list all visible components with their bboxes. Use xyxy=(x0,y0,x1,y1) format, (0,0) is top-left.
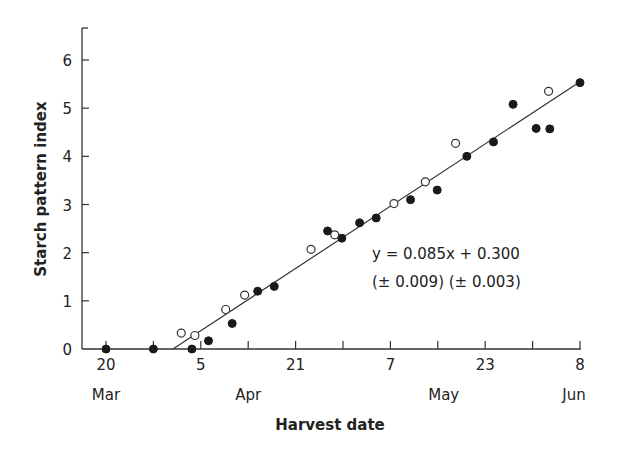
x-tick-label: 8 xyxy=(575,356,585,374)
filled-data-point xyxy=(102,345,110,353)
filled-data-point xyxy=(463,152,471,160)
filled-data-point xyxy=(254,287,262,295)
filled-data-point xyxy=(356,219,364,227)
filled-data-point xyxy=(433,186,441,194)
x-axis-title: Harvest date xyxy=(275,416,385,434)
y-tick-label: 0 xyxy=(62,341,72,359)
x-tick-label: 7 xyxy=(386,356,396,374)
y-tick-label: 1 xyxy=(62,293,72,311)
filled-data-point xyxy=(546,125,554,133)
filled-data-point xyxy=(270,282,278,290)
scatter-chart: 0123456 205217238 MarAprMayJun Harvest d… xyxy=(0,0,634,454)
open-data-point xyxy=(222,306,230,314)
regression-equation: y = 0.085x + 0.300 xyxy=(372,245,520,263)
month-labels: MarAprMayJun xyxy=(92,386,586,404)
x-tick-label: 23 xyxy=(476,356,495,374)
open-data-point xyxy=(191,332,199,340)
month-label: Apr xyxy=(235,386,262,404)
y-axis-title: Starch pattern index xyxy=(32,101,50,277)
month-label: Mar xyxy=(92,386,121,404)
data-points xyxy=(102,79,584,353)
open-data-point xyxy=(545,87,553,95)
filled-data-point xyxy=(532,124,540,132)
open-data-point xyxy=(452,139,460,147)
filled-data-point xyxy=(489,138,497,146)
x-ticks: 205217238 xyxy=(96,341,584,374)
x-tick-label: 21 xyxy=(286,356,305,374)
filled-data-point xyxy=(372,214,380,222)
open-data-point xyxy=(331,231,339,239)
filled-data-point xyxy=(576,79,584,87)
filled-data-point xyxy=(228,319,236,327)
open-data-point xyxy=(421,178,429,186)
open-data-point xyxy=(241,291,249,299)
month-label: May xyxy=(428,386,459,404)
filled-data-point xyxy=(407,196,415,204)
y-tick-label: 3 xyxy=(62,197,72,215)
axes xyxy=(82,28,581,349)
y-tick-label: 6 xyxy=(62,52,72,70)
y-tick-label: 5 xyxy=(62,100,72,118)
open-data-point xyxy=(390,200,398,208)
y-tick-label: 4 xyxy=(62,148,72,166)
regression-errors: (± 0.009) (± 0.003) xyxy=(372,273,521,291)
y-tick-label: 2 xyxy=(62,245,72,263)
open-data-point xyxy=(177,329,185,337)
x-tick-label: 5 xyxy=(196,356,206,374)
filled-data-point xyxy=(205,337,213,345)
filled-data-point xyxy=(188,345,196,353)
filled-data-point xyxy=(509,100,517,108)
y-ticks: 0123456 xyxy=(62,52,89,359)
filled-data-point xyxy=(149,345,157,353)
open-data-point xyxy=(307,245,315,253)
month-label: Jun xyxy=(561,386,585,404)
x-tick-label: 20 xyxy=(96,356,115,374)
